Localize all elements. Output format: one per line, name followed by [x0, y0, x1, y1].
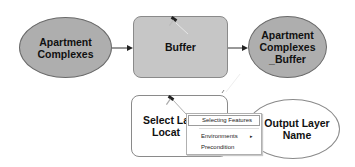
menu-item-label: Precondition	[201, 144, 234, 150]
model-builder-canvas[interactable]: Apartment Complexes Buffer Apartment Com…	[0, 0, 355, 167]
hammer-icon	[164, 95, 174, 106]
menu-item-selecting-features[interactable]: Selecting Features	[188, 115, 260, 126]
menu-item-label: Selecting Features	[202, 117, 252, 123]
tool-icons-layer	[0, 0, 355, 167]
context-menu: Selecting Features Environments ▸ Precon…	[186, 113, 262, 155]
menu-separator	[199, 128, 259, 129]
menu-item-precondition[interactable]: Precondition	[187, 142, 261, 153]
submenu-arrow-icon: ▸	[250, 131, 253, 142]
hammer-icon	[167, 16, 177, 27]
menu-item-environments[interactable]: Environments ▸	[187, 131, 261, 142]
menu-item-label: Environments	[201, 133, 238, 139]
